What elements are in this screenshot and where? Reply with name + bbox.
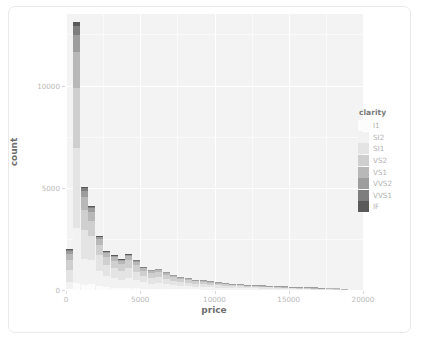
histogram-bar (281, 286, 288, 290)
legend-item[interactable]: IF (358, 201, 416, 213)
legend-item[interactable]: VVS2 (358, 178, 416, 190)
legend-item-label: SI2 (373, 133, 384, 142)
x-tick-mark (363, 291, 364, 294)
histogram-bar (304, 287, 311, 290)
bar-segment (222, 288, 229, 290)
legend-item[interactable]: I1 (358, 120, 416, 132)
bar-segment (281, 288, 288, 289)
bar-segment (81, 191, 88, 197)
bar-segment (133, 265, 140, 271)
bar-segment (259, 289, 266, 290)
bar-segment (318, 289, 325, 290)
bar-segment (252, 285, 259, 286)
histogram-bar (177, 277, 184, 290)
bar-segment (96, 255, 103, 271)
bar-segment (66, 251, 73, 254)
bar-segment (304, 288, 311, 289)
bar-segment (133, 261, 140, 262)
legend-color-swatch (358, 120, 369, 131)
bar-segment (81, 188, 88, 191)
histogram-bar (88, 206, 95, 290)
bar-segment (289, 289, 296, 290)
bar-segment (177, 279, 184, 282)
legend-item[interactable]: VVS1 (358, 190, 416, 202)
bar-segment (118, 271, 125, 280)
bar-segment (73, 26, 80, 35)
bar-segment (200, 290, 207, 291)
bar-segment (103, 257, 110, 264)
bar-segment (177, 277, 184, 278)
bar-segment (88, 284, 95, 290)
histogram-bar (111, 255, 118, 290)
bar-segment (207, 287, 214, 289)
bar-segment (200, 282, 207, 284)
bar-segment (200, 284, 207, 287)
legend-color-swatch (358, 155, 369, 166)
bar-segment (215, 283, 222, 284)
bar-segment (163, 289, 170, 290)
x-tick-mark (215, 291, 216, 294)
legend-color-swatch (358, 190, 369, 201)
bar-segment (66, 250, 73, 251)
bar-segment (155, 269, 162, 272)
y-tick-label: 5000 (26, 183, 60, 192)
bar-segment (229, 284, 236, 285)
bar-segment (118, 260, 125, 261)
legend-item-label: SI1 (373, 144, 384, 153)
bar-segment (229, 288, 236, 290)
bar-segment (66, 249, 73, 250)
bar-segment (170, 275, 177, 277)
legend-color-swatch (358, 132, 369, 143)
bar-segment (133, 280, 140, 288)
histogram-bar (229, 283, 236, 290)
histogram-bar (289, 287, 296, 290)
legend-item[interactable]: SI2 (358, 132, 416, 144)
histogram-bar (155, 269, 162, 290)
histogram-bar (318, 288, 325, 290)
bar-segment (200, 287, 207, 289)
bar-segment (192, 284, 199, 287)
bar-segment (222, 284, 229, 286)
histogram-bar (274, 286, 281, 290)
x-tick-mark (66, 291, 67, 294)
bar-segment (148, 271, 155, 274)
bar-segment (185, 286, 192, 289)
bar-segment (304, 289, 311, 290)
bar-segment (73, 52, 80, 88)
bar-segment (311, 288, 318, 289)
bar-segment (185, 279, 192, 281)
legend-item[interactable]: VS2 (358, 155, 416, 167)
bar-segment (96, 239, 103, 245)
bar-segment (118, 288, 125, 290)
histogram-bar (185, 278, 192, 290)
histogram-bar (163, 272, 170, 290)
bar-segment (163, 275, 170, 279)
bar-segment (96, 286, 103, 290)
legend-item[interactable]: VS1 (358, 166, 416, 178)
bar-segment (318, 288, 325, 289)
bar-segment (133, 262, 140, 266)
histogram-bar (326, 288, 333, 290)
bar-segment (185, 280, 192, 283)
bar-segment (88, 221, 95, 236)
legend-item[interactable]: SI1 (358, 143, 416, 155)
bar-segment (148, 278, 155, 284)
bar-segment (81, 197, 88, 210)
bar-segment (111, 257, 118, 261)
bar-segment (163, 272, 170, 274)
legend-item-label: I1 (373, 121, 380, 130)
bar-segment (237, 286, 244, 288)
bar-segment (73, 283, 80, 290)
bar-segment (311, 289, 318, 290)
bar-segment (118, 261, 125, 265)
bar-segment (66, 282, 73, 289)
histogram-bar (252, 285, 259, 290)
bar-segment (296, 288, 303, 289)
bar-segment (103, 276, 110, 287)
bar-segment (140, 271, 147, 276)
bar-segment (111, 261, 118, 268)
bar-segment (281, 287, 288, 288)
bar-segment (163, 272, 170, 273)
bar-segment (326, 289, 333, 290)
bar-segment (88, 236, 95, 261)
